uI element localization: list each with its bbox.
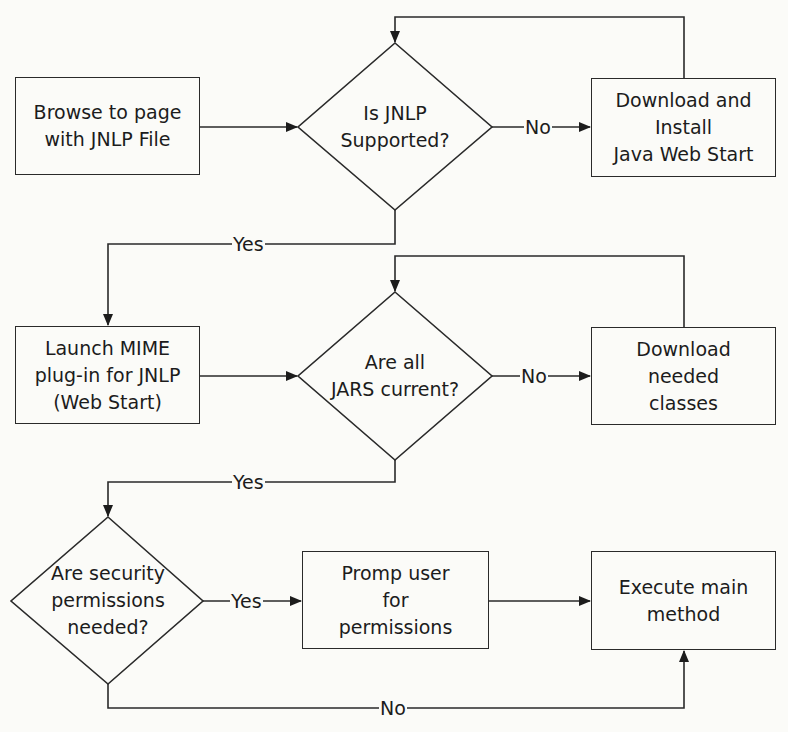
edge-label-jnlp-no: No bbox=[524, 116, 552, 138]
arrow-classes-loop bbox=[395, 256, 684, 327]
arrow-jnlp-yes bbox=[108, 210, 395, 325]
edge-label-jars-yes: Yes bbox=[232, 471, 265, 493]
edge-label-security-yes: Yes bbox=[230, 590, 263, 612]
arrow-install-loop bbox=[395, 17, 684, 78]
decision-jnlp-supported: Is JNLP Supported? bbox=[315, 100, 475, 154]
edge-label-jnlp-yes: Yes bbox=[232, 233, 265, 255]
decision-jars-current: Are all JARS current? bbox=[305, 349, 485, 403]
decision-security-needed: Are security permissions needed? bbox=[18, 560, 198, 641]
process-execute-main: Execute main method bbox=[591, 551, 776, 650]
process-prompt-user: Promp user for permissions bbox=[302, 551, 489, 649]
process-download-install: Download and Install Java Web Start bbox=[591, 78, 776, 177]
edge-label-security-no: No bbox=[379, 697, 407, 719]
edge-label-jars-no: No bbox=[520, 365, 548, 387]
process-download-classes: Download needed classes bbox=[591, 327, 776, 425]
process-launch-mime: Launch MIME plug-in for JNLP (Web Start) bbox=[15, 326, 200, 424]
process-browse-to-page: Browse to page with JNLP File bbox=[15, 77, 200, 175]
